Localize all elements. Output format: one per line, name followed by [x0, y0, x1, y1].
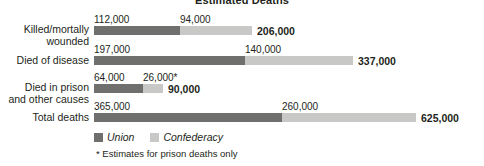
chart-title: Estimated Deaths: [0, 0, 484, 6]
bar-segment-confederacy: [143, 84, 163, 93]
total-label: 90,000: [168, 83, 200, 95]
row-label-line1: Died of disease: [0, 55, 89, 67]
stacked-bar-total-deaths: 365,000 260,000 625,000: [94, 113, 416, 122]
legend-label-confederacy: Confederacy: [163, 131, 223, 143]
bar-segment-confederacy: [282, 113, 416, 122]
value-label-union: 365,000: [94, 101, 130, 112]
total-label: 337,000: [358, 55, 396, 67]
bar-segment-union: [94, 26, 180, 35]
stacked-bar-killed-mortally-wounded: 112,000 94,000 206,000: [94, 26, 252, 35]
chart-row-total-deaths: Total deaths 365,000 260,000 625,000: [0, 101, 484, 129]
value-label-confederacy: 26,000*: [143, 72, 177, 83]
row-label-line1: Killed/mortally: [0, 24, 89, 36]
chart-legend: Union Confederacy: [94, 131, 223, 143]
legend-swatch-confederacy-icon: [150, 133, 159, 142]
row-label-line1: Total deaths: [0, 112, 89, 124]
estimated-deaths-chart: Estimated Deaths Killed/mortally wounded…: [0, 0, 484, 166]
value-label-confederacy: 140,000: [245, 44, 281, 55]
value-label-union: 64,000: [94, 72, 125, 83]
row-label-total-deaths: Total deaths: [0, 112, 89, 124]
total-label: 206,000: [257, 25, 295, 37]
bar-segment-union: [94, 56, 245, 65]
row-label-line1: Died in prison: [0, 82, 89, 94]
row-label-died-of-disease: Died of disease: [0, 55, 89, 67]
bar-segment-confederacy: [180, 26, 252, 35]
total-label: 625,000: [421, 112, 459, 124]
stacked-bar-died-of-disease: 197,000 140,000 337,000: [94, 56, 353, 65]
bar-segment-union: [94, 113, 282, 122]
value-label-confederacy: 94,000: [180, 14, 211, 25]
value-label-union: 197,000: [94, 44, 130, 55]
chart-footnote: * Estimates for prison deaths only: [96, 148, 238, 159]
bar-segment-confederacy: [245, 56, 353, 65]
chart-row-died-of-disease: Died of disease 197,000 140,000 337,000: [0, 44, 484, 72]
chart-row-killed-mortally-wounded: Killed/mortally wounded 112,000 94,000 2…: [0, 14, 484, 42]
chart-row-died-in-prison: Died in prison and other causes 64,000 2…: [0, 72, 484, 100]
legend-swatch-union-icon: [94, 133, 103, 142]
value-label-union: 112,000: [94, 14, 129, 25]
value-label-confederacy: 260,000: [282, 101, 318, 112]
legend-item-union: Union: [94, 131, 134, 143]
legend-item-confederacy: Confederacy: [150, 131, 223, 143]
stacked-bar-died-in-prison: 64,000 26,000* 90,000: [94, 84, 163, 93]
legend-label-union: Union: [107, 131, 134, 143]
bar-segment-union: [94, 84, 143, 93]
